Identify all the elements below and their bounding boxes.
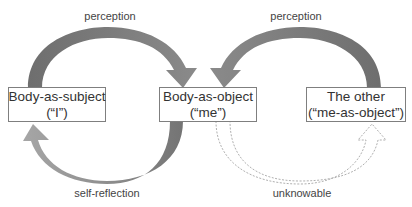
edge-label-perception-right: perception: [270, 10, 321, 22]
node-title: The other: [327, 89, 385, 105]
node-subtitle: (“me”): [190, 105, 227, 121]
perception-arrow-right: [210, 27, 381, 88]
edge-label-perception-left: perception: [84, 10, 135, 22]
self-reflection-arrow: [23, 121, 183, 184]
node-the-other: The other (“me-as-object”): [306, 87, 406, 122]
node-body-as-subject: Body-as-subject (“I”): [8, 87, 106, 122]
node-body-as-object: Body-as-object (“me”): [159, 87, 257, 122]
node-subtitle: (“I”): [46, 105, 68, 121]
node-subtitle: (“me-as-object”): [308, 105, 404, 121]
node-title: Body-as-subject: [9, 89, 106, 105]
unknowable-arrow: [216, 121, 386, 184]
node-title: Body-as-object: [163, 89, 253, 105]
edge-label-unknowable: unknowable: [273, 187, 332, 199]
perception-arrow-left: [28, 27, 197, 88]
edge-label-self-reflection: self-reflection: [74, 187, 139, 199]
